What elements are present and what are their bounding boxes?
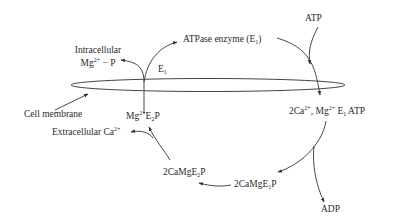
arrow-adp-release xyxy=(313,146,324,202)
label-atpase-enzyme: ATPase enzyme (E1) xyxy=(183,34,261,45)
label-ca-mg-e2p: 2CaMgE2P xyxy=(163,167,206,178)
cell-membrane-shape xyxy=(71,79,345,92)
arrow-to-mge2p xyxy=(149,127,170,160)
p: P xyxy=(200,167,205,177)
label-e1: E1 xyxy=(158,64,167,75)
extracellular-text: Extracellular Ca xyxy=(52,127,114,137)
mgp-rest: − P xyxy=(100,58,115,68)
arrow-to-atpase-e1 xyxy=(144,42,177,82)
p: P xyxy=(154,111,159,121)
label-atp: ATP xyxy=(305,13,322,24)
cell-membrane-pointer xyxy=(55,94,88,110)
arrow-to-extracellular-ca xyxy=(131,131,153,138)
e: E xyxy=(335,106,343,116)
label-ca-mg-e1p: 2CaMgE1P xyxy=(234,179,277,190)
atpase-close: ) xyxy=(258,34,261,44)
camge: 2CaMgE xyxy=(163,167,197,177)
atp-text: ATP xyxy=(305,13,322,23)
intracellular-text: Intracellular xyxy=(70,45,126,56)
label-adp: ADP xyxy=(321,204,340,215)
label-mg-e2p: Mg2+E2P xyxy=(126,111,160,122)
ca-charge: 2+ xyxy=(114,126,120,132)
label-intracellular-mgp: Intracellular Mg2+ − P xyxy=(70,45,126,69)
adp-text: ADP xyxy=(321,204,340,214)
e1-sub: 1 xyxy=(164,69,167,75)
label-extracellular-ca: Extracellular Ca2+ xyxy=(52,127,120,138)
mg: Mg xyxy=(126,111,139,121)
label-cell-membrane: Cell membrane xyxy=(24,109,82,120)
p: P xyxy=(271,179,276,189)
atpase-text: ATPase enzyme (E xyxy=(183,34,255,44)
mg: , Mg xyxy=(311,106,329,116)
mgp-text: Mg2+ − P xyxy=(70,58,126,69)
atp: ATP xyxy=(346,106,365,116)
mg: Mg xyxy=(81,58,94,68)
arrow-atpase-to-ca-mg-e1-atp xyxy=(277,38,320,95)
arrow-to-ca-mg-e2p xyxy=(199,183,231,186)
cell-membrane-text: Cell membrane xyxy=(24,109,82,119)
arrow-atp-input xyxy=(309,27,318,64)
label-ca-mg-e1-atp: 2Ca2+, Mg2+ E1 ATP xyxy=(289,106,365,117)
ca: 2Ca xyxy=(289,106,304,116)
camge: 2CaMgE xyxy=(234,179,268,189)
arrow-to-ca-mg-e1p xyxy=(278,121,326,172)
